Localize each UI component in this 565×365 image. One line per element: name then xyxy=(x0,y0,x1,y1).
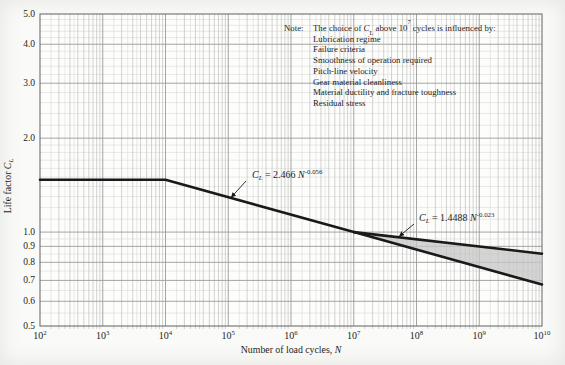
x-tick-label: 102 xyxy=(33,329,47,341)
note-item: Residual stress xyxy=(313,98,554,109)
y-tick-label: 4.0 xyxy=(23,39,35,49)
y-tick-label: 5.0 xyxy=(23,9,35,19)
note-item: Lubrication regime xyxy=(313,34,554,45)
note-item: Pitch-line velocity xyxy=(313,66,554,77)
x-tick-label: 103 xyxy=(96,329,110,341)
y-tick-label: 0.7 xyxy=(23,275,35,285)
figure-page: CL = 2.466 N-0.056CL = 1.4488 N-0.023102… xyxy=(0,0,565,365)
note-intro-post: cycles is influenced by: xyxy=(411,23,496,33)
note-item: Smoothness of operation required xyxy=(313,55,554,66)
note-item: Failure criteria xyxy=(313,44,554,55)
note-intro-row: Note: The choice of CL above 107 cycles … xyxy=(284,23,554,34)
y-tick-label: 0.5 xyxy=(23,321,35,331)
y-tick-label: 0.9 xyxy=(23,241,35,251)
x-tick-label: 106 xyxy=(284,329,298,341)
note-item: Gear material cleanliness xyxy=(313,77,554,88)
x-tick-label: 1010 xyxy=(534,329,551,341)
x-axis-title: Number of load cycles, N xyxy=(241,344,342,355)
note-intro-sup: 7 xyxy=(408,18,411,25)
note-items: Lubrication regime Failure criteria Smoo… xyxy=(313,34,554,109)
y-tick-label: 2.0 xyxy=(23,133,35,143)
note-block: Note: The choice of CL above 107 cycles … xyxy=(284,23,554,109)
note-intro-pre: The choice of xyxy=(313,23,364,33)
note-label: Note: xyxy=(284,23,313,34)
note-intro-mid: above 10 xyxy=(373,23,407,33)
note-intro-sub: L xyxy=(369,29,373,36)
y-axis-title: Life factor CL xyxy=(2,159,14,214)
x-tick-label: 107 xyxy=(347,329,361,341)
x-tick-label: 105 xyxy=(222,329,236,341)
y-tick-label: 3.0 xyxy=(23,78,35,88)
x-tick-label: 108 xyxy=(410,329,424,341)
x-tick-label: 104 xyxy=(159,329,173,341)
x-tick-label: 109 xyxy=(473,329,487,341)
note-item: Material ductility and fracture toughnes… xyxy=(313,87,554,98)
note-intro: The choice of CL above 107 cycles is inf… xyxy=(313,23,496,34)
y-tick-label: 0.6 xyxy=(23,296,35,306)
y-tick-label: 0.8 xyxy=(23,257,35,267)
y-tick-label: 1.0 xyxy=(23,227,35,237)
